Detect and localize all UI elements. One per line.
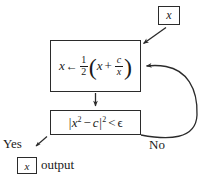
condition-base-exponent: 2: [78, 115, 82, 124]
assignment-arrow-glyph: ←: [65, 59, 79, 74]
fraction-denominator: 2: [80, 67, 87, 78]
abs-outer-exponent: 2: [102, 115, 106, 124]
condition-box: | x 2 − c | 2 < ϵ: [50, 110, 141, 135]
flowchart-canvas: x x ← 1 2 ( x + c x ) | x 2: [0, 0, 204, 177]
input-x-box: x: [158, 6, 180, 25]
plus-operator: +: [103, 58, 114, 74]
input-to-update-arrow: [144, 28, 167, 44]
output-x-box: x: [17, 157, 37, 174]
condition-expression: | x 2 − c | 2 < ϵ: [68, 115, 123, 131]
condition-no-loop-arrow: [141, 66, 197, 138]
update-formula-box: x ← 1 2 ( x + c x ): [50, 40, 141, 92]
yes-branch-label: Yes: [3, 136, 22, 152]
c-over-x-fraction: c x: [115, 55, 123, 78]
input-x-variable: x: [166, 8, 171, 23]
epsilon-symbol: ϵ: [118, 115, 123, 131]
output-word-label: output: [41, 157, 74, 173]
c-over-x-denominator: x: [116, 67, 122, 78]
update-formula: x ← 1 2 ( x + c x ): [59, 55, 132, 78]
fraction-numerator: 1: [80, 55, 87, 66]
minus-operator: −: [82, 115, 93, 131]
condition-yes-arrow: [36, 137, 47, 147]
output-x-variable: x: [25, 160, 30, 172]
less-than-operator: <: [106, 115, 117, 131]
one-half-fraction: 1 2: [80, 55, 88, 78]
no-branch-label: No: [149, 137, 165, 153]
c-over-x-numerator: c: [116, 55, 122, 66]
